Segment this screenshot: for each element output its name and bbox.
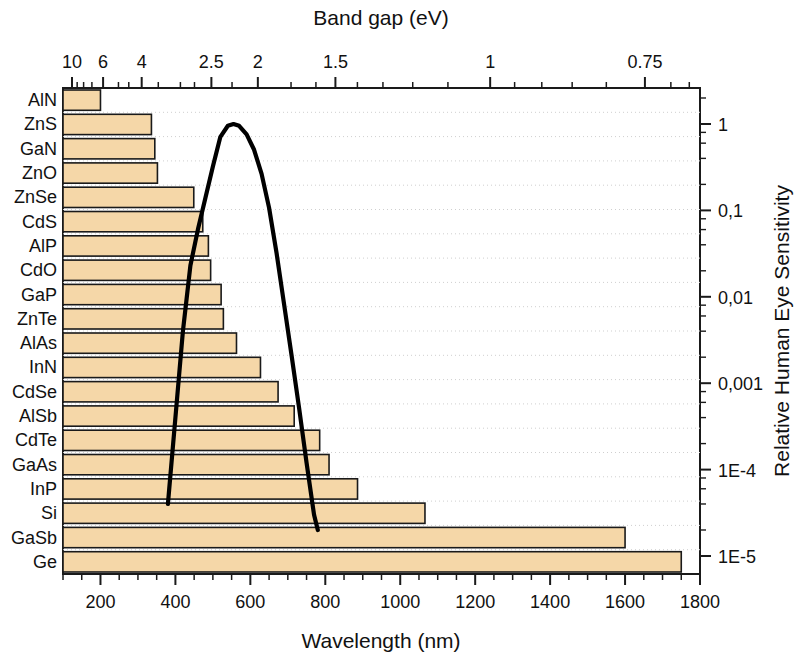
category-label: GaAs <box>12 455 57 475</box>
bar <box>63 309 223 329</box>
category-label: ZnS <box>24 114 57 134</box>
top-tick-label: 10 <box>62 52 82 72</box>
category-label: CdTe <box>15 430 57 450</box>
bar <box>63 527 625 547</box>
category-label: GaN <box>20 139 57 159</box>
top-tick-label: 1 <box>485 52 495 72</box>
bar <box>63 552 681 572</box>
category-label: InP <box>30 479 57 499</box>
category-label: AlP <box>29 236 57 256</box>
category-label: ZnTe <box>17 309 57 329</box>
category-label: CdO <box>20 260 57 280</box>
bottom-tick-label: 1400 <box>530 592 570 612</box>
bar <box>63 455 329 475</box>
bar <box>63 430 320 450</box>
right-tick-label: 0,01 <box>718 288 753 308</box>
top-axis-title: Band gap (eV) <box>313 6 448 29</box>
bar <box>63 236 208 256</box>
bottom-tick-label: 1800 <box>680 592 720 612</box>
right-tick-label: 1E-4 <box>718 461 756 481</box>
right-tick-label: 0,1 <box>718 201 743 221</box>
chart-svg: 10642.521.510.75 20040060080010001200140… <box>0 0 802 655</box>
top-tick-label: 0.75 <box>627 52 662 72</box>
category-label: AlAs <box>20 333 57 353</box>
bar <box>63 212 203 232</box>
category-label: Si <box>41 503 57 523</box>
bottom-tick-label: 1600 <box>605 592 645 612</box>
category-label: AlSb <box>19 406 57 426</box>
top-tick-label: 6 <box>98 52 108 72</box>
bar <box>63 114 151 134</box>
right-tick-label: 1E-5 <box>718 547 756 567</box>
bottom-tick-label: 800 <box>310 592 340 612</box>
bar <box>63 357 260 377</box>
bottom-tick-label: 1000 <box>380 592 420 612</box>
bar <box>63 382 278 402</box>
category-label: GaSb <box>11 528 57 548</box>
band-gap-wavelength-chart: 10642.521.510.75 20040060080010001200140… <box>0 0 802 655</box>
category-label: CdS <box>22 212 57 232</box>
category-label: AlN <box>28 90 57 110</box>
category-label: InN <box>29 357 57 377</box>
top-tick-label: 4 <box>137 52 147 72</box>
category-label: GaP <box>21 285 57 305</box>
bottom-tick-label: 1200 <box>455 592 495 612</box>
plot-area-frame <box>63 88 700 574</box>
bar <box>63 333 236 353</box>
bar <box>63 503 425 523</box>
top-tick-label: 1.5 <box>323 52 348 72</box>
bar <box>63 90 100 110</box>
right-tick-label: 1 <box>718 115 728 135</box>
bottom-tick-label: 600 <box>235 592 265 612</box>
right-axis-title: Relative Human Eye Sensitivity <box>770 185 793 477</box>
bar <box>63 284 221 304</box>
category-label: CdSe <box>12 382 57 402</box>
bar <box>63 406 294 426</box>
top-tick-label: 2.5 <box>199 52 224 72</box>
top-tick-label: 2 <box>253 52 263 72</box>
category-label: ZnSe <box>14 187 57 207</box>
bar <box>63 139 155 159</box>
bottom-axis-title: Wavelength (nm) <box>301 629 460 652</box>
bar <box>63 187 194 207</box>
bottom-tick-label: 200 <box>85 592 115 612</box>
category-label: ZnO <box>22 163 57 183</box>
bar <box>63 163 157 183</box>
right-tick-label: 0,001 <box>718 374 763 394</box>
bottom-tick-label: 400 <box>160 592 190 612</box>
category-label: Ge <box>33 552 57 572</box>
